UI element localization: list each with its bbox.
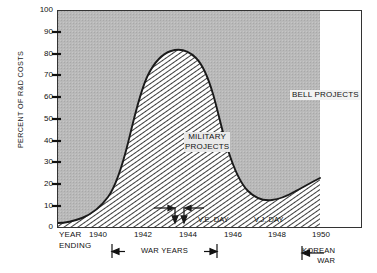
- x-tick-1946: 1946: [224, 230, 242, 239]
- x-tick-1950: 1950: [312, 230, 330, 239]
- korean-war-line2: WAR: [302, 256, 337, 266]
- military-projects-label-line1: MILITARY: [184, 132, 230, 142]
- plot-area: BELL PROJECTS MILITARY PROJECTS V.E. DAY…: [57, 10, 362, 228]
- x-tick-1948: 1948: [268, 230, 286, 239]
- war-years-label: WAR YEARS: [112, 245, 217, 257]
- x-axis-tick-labels: 1940 1942 1944 1946 1948 1950: [0, 230, 377, 242]
- y-axis-title: PERCENT OF R&D COSTS: [16, 40, 25, 160]
- chart-svg: [58, 11, 361, 227]
- year-ending-line2: ENDING: [59, 241, 91, 252]
- x-tick-1940: 1940: [89, 230, 107, 239]
- chart-figure: PERCENT OF R&D COSTS 100 90 80 70 60 50 …: [0, 0, 377, 273]
- y-axis-ticks: [48, 5, 62, 235]
- vj-day-label: V.J. DAY: [254, 215, 284, 224]
- korean-war-line1: KOREAN: [302, 246, 337, 256]
- x-tick-1942: 1942: [134, 230, 152, 239]
- bell-projects-label: BELL PROJECTS: [290, 90, 361, 100]
- war-years-span: WAR YEARS: [112, 245, 217, 259]
- korean-war-label: KOREAN WAR: [302, 246, 337, 265]
- ve-day-label: V.E. DAY: [198, 215, 229, 224]
- military-projects-label-line2: PROJECTS: [184, 142, 230, 152]
- military-projects-label: MILITARY PROJECTS: [184, 132, 230, 152]
- x-tick-1944: 1944: [179, 230, 197, 239]
